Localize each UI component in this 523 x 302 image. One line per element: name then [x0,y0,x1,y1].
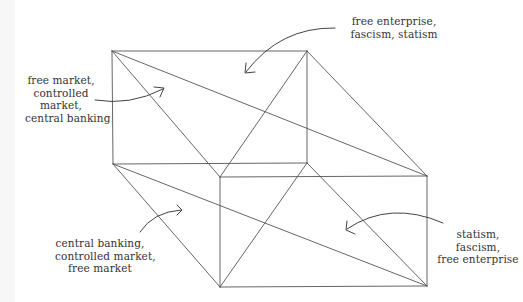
box-edge-back-bottom-right-to-front-bottom-right [307,163,427,286]
box-edge-back-top-left-to-front-top-left [112,51,220,177]
label-line: controlled market, [55,250,145,263]
label-top-right: free enterprise, fascism, statism [344,15,444,40]
label-line: fascism, statism [344,28,444,41]
box-edge-back-top-right-to-front-top-right [307,51,427,176]
label-line: statism, [435,228,521,241]
curved-arrow-bottom-left-icon [140,210,181,232]
label-bottom-left: central banking, controlled market, free… [55,237,145,275]
box-edge-front-bottom-right-to-front-bottom-left [220,286,427,287]
label-line: central banking [25,112,97,125]
curved-arrow-top-right-icon [246,28,335,72]
box-edge-back-top-right-to-front-top-left [220,51,307,177]
label-line: free market, [25,74,97,87]
box-edges [112,51,427,287]
box-edge-back-bottom-left-to-back-top-left [112,51,113,164]
label-top-left: free market, controlled market, central … [25,74,97,124]
label-line: free enterprise [435,253,521,266]
label-line: free enterprise, [344,15,444,28]
diagram-canvas: free market, controlled market, central … [0,0,523,302]
box-edge-front-top-left-to-front-top-right [220,176,427,177]
label-line: central banking, [55,237,145,250]
label-line: free market [55,262,145,275]
arrowhead-bottom-right-icon [346,221,355,234]
curved-arrow-top-left-icon [95,89,163,102]
box-edge-back-bottom-right-to-front-bottom-left [220,163,307,287]
label-line: controlled [25,87,97,100]
box-edge-back-top-left-to-front-top-right [112,51,427,176]
label-line: fascism, [435,241,521,254]
box-edge-back-bottom-right-to-back-bottom-left [113,163,307,164]
label-bottom-right: statism, fascism, free enterprise [435,228,521,266]
curved-arrow-bottom-right-icon [347,213,443,229]
arrowhead-top-left-icon [154,87,164,97]
label-line: market, [25,99,97,112]
box-edge-back-bottom-left-to-front-bottom-right [113,164,427,286]
